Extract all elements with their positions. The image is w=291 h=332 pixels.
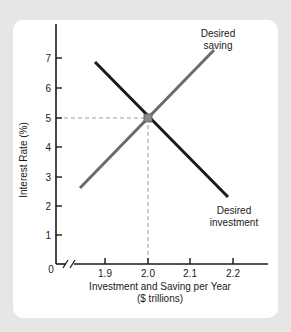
y-tick-label: 2: [45, 201, 51, 212]
x-axis-title: Investment and Saving per Year: [89, 281, 231, 292]
x-tick-label: 2.0: [141, 268, 155, 279]
x-tick-label: 2.1: [183, 268, 197, 279]
equilibrium-point-marker: [144, 114, 152, 122]
x-axis-title-units: ($ trillions): [137, 293, 183, 304]
desired-investment-label: Desired: [217, 205, 251, 216]
desired-saving-label: saving: [204, 40, 233, 51]
y-axis-title: Interest Rate (%): [18, 122, 29, 198]
y-tick-label: 5: [45, 113, 51, 124]
y-tick-label: 7: [45, 53, 51, 64]
y-tick-label: 4: [45, 142, 51, 153]
x-tick-label: 2.2: [226, 268, 240, 279]
y-ticks: [56, 58, 62, 235]
y-tick-labels: 7 6 5 4 3 2 1: [45, 53, 51, 241]
y-tick-label: 3: [45, 172, 51, 183]
x-tick-label: 1.9: [98, 268, 112, 279]
desired-saving-label: Desired: [201, 28, 235, 39]
y-tick-label: 1: [45, 230, 51, 241]
origin-label: 0: [48, 264, 54, 275]
desired-investment-label: investment: [210, 217, 259, 228]
x-ticks: [105, 258, 233, 264]
desired-investment-line: [95, 62, 228, 197]
savings-investment-chart: 7 6 5 4 3 2 1 0 1.9 2.0 2.1 2.2 Investme…: [0, 0, 291, 332]
x-tick-labels: 1.9 2.0 2.1 2.2: [98, 268, 240, 279]
y-tick-label: 6: [45, 83, 51, 94]
